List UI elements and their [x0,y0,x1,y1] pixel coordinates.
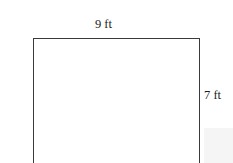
corner-panel [204,128,233,163]
rectangle-shape [33,38,200,163]
figure-canvas: 9 ft 7 ft [0,0,233,163]
dimension-label-top: 9 ft [0,18,233,31]
dimension-label-right: 7 ft [204,89,221,102]
